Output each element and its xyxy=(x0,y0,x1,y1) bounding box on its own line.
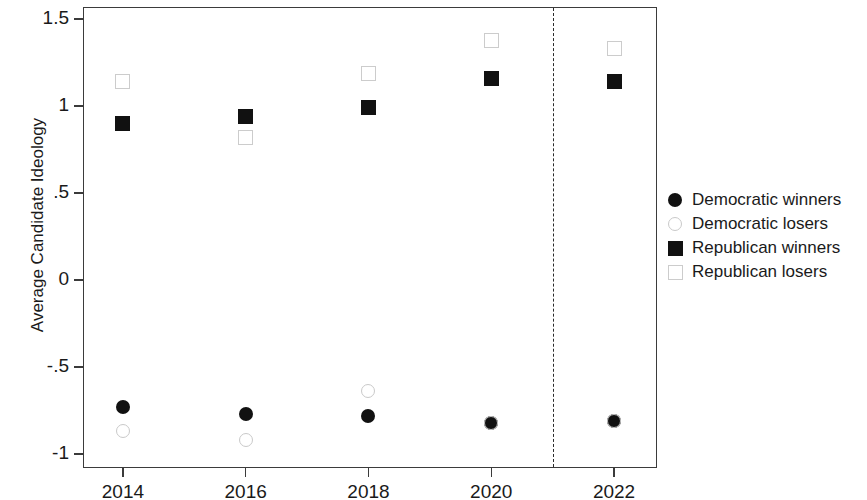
x-tick-mark xyxy=(613,468,614,477)
legend-item-label: Democratic winners xyxy=(692,188,841,212)
data-point xyxy=(484,33,499,48)
y-tick-label: 1.5 xyxy=(43,7,69,29)
legend-swatch xyxy=(668,241,683,256)
x-tick-mark xyxy=(368,468,369,477)
legend-item: Democratic winners xyxy=(666,188,866,212)
y-tick-label: -1 xyxy=(52,442,69,464)
data-point xyxy=(116,400,130,414)
legend-item: Democratic losers xyxy=(666,212,866,236)
data-point xyxy=(484,71,499,86)
y-tick-label: -.5 xyxy=(47,355,69,377)
x-tick-mark xyxy=(245,468,246,477)
legend-item: Republican losers xyxy=(666,260,866,284)
x-tick-label: 2018 xyxy=(328,481,408,500)
legend-item-label: Republican winners xyxy=(692,236,840,260)
data-point xyxy=(607,414,621,428)
data-point xyxy=(361,100,376,115)
legend-item-label: Democratic losers xyxy=(692,212,828,236)
legend-marker-square-filled-icon xyxy=(666,236,692,260)
x-tick-label: 2022 xyxy=(574,481,654,500)
x-tick-label: 2016 xyxy=(206,481,286,500)
vertical-dashed-reference-line xyxy=(553,8,554,467)
data-point xyxy=(238,109,253,124)
data-point xyxy=(238,130,253,145)
data-point xyxy=(239,433,253,447)
legend-swatch xyxy=(668,193,682,207)
y-tick-label: .5 xyxy=(53,181,69,203)
data-point xyxy=(484,416,498,430)
y-tick-mark xyxy=(74,105,83,106)
y-tick-mark xyxy=(74,366,83,367)
x-tick-label: 2020 xyxy=(451,481,531,500)
x-tick-label: 2014 xyxy=(83,481,163,500)
legend: Democratic winnersDemocratic losersRepub… xyxy=(666,188,866,284)
y-tick-mark xyxy=(74,192,83,193)
legend-item: Republican winners xyxy=(666,236,866,260)
legend-swatch xyxy=(668,265,683,280)
y-tick-label: 1 xyxy=(58,94,69,116)
data-point xyxy=(607,41,622,56)
x-tick-mark xyxy=(491,468,492,477)
y-tick-mark xyxy=(74,453,83,454)
data-point xyxy=(115,116,130,131)
data-point xyxy=(607,74,622,89)
legend-marker-circle-open-icon xyxy=(666,212,692,236)
legend-swatch xyxy=(668,217,682,231)
y-tick-mark xyxy=(74,279,83,280)
data-point xyxy=(361,66,376,81)
data-point xyxy=(115,74,130,89)
legend-item-label: Republican losers xyxy=(692,260,827,284)
y-axis-title: Average Candidate Ideology xyxy=(28,95,48,355)
y-tick-mark xyxy=(74,18,83,19)
y-tick-label: 0 xyxy=(58,268,69,290)
data-point xyxy=(239,407,253,421)
chart-figure: Average Candidate Ideology 1.51.50-.5-1 … xyxy=(0,0,867,500)
x-tick-mark xyxy=(122,468,123,477)
legend-marker-circle-filled-icon xyxy=(666,188,692,212)
legend-marker-square-open-icon xyxy=(666,260,692,284)
